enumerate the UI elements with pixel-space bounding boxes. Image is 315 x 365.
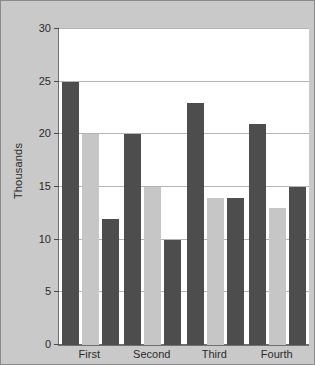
bar <box>289 187 306 345</box>
x-category-label: First <box>79 348 100 360</box>
bar <box>207 198 224 345</box>
bar <box>269 208 286 345</box>
y-tick-label: 10 <box>39 233 51 245</box>
bar-chart: Thousands 051015202530 FirstSecondThirdF… <box>0 0 315 365</box>
y-tick-label: 30 <box>39 22 51 34</box>
bar <box>164 240 181 345</box>
bar <box>187 103 204 345</box>
x-category-label: Fourth <box>261 348 293 360</box>
bar <box>62 82 79 345</box>
bars <box>59 29 309 345</box>
y-tick-label: 20 <box>39 127 51 139</box>
bar <box>249 124 266 345</box>
y-axis-title: Thousands <box>7 1 29 341</box>
y-tick-label: 15 <box>39 180 51 192</box>
bar <box>227 198 244 345</box>
x-category-label: Second <box>133 348 170 360</box>
bar <box>144 187 161 345</box>
y-tick-label: 25 <box>39 75 51 87</box>
plot-area: 051015202530 <box>58 29 309 346</box>
bar <box>82 134 99 345</box>
bar <box>102 219 119 345</box>
x-axis-categories: FirstSecondThirdFourth <box>58 348 309 364</box>
y-axis-title-label: Thousands <box>12 143 24 199</box>
y-tick-label: 5 <box>45 285 51 297</box>
x-category-label: Third <box>202 348 227 360</box>
y-tick-label: 0 <box>45 338 51 350</box>
bar <box>124 134 141 345</box>
